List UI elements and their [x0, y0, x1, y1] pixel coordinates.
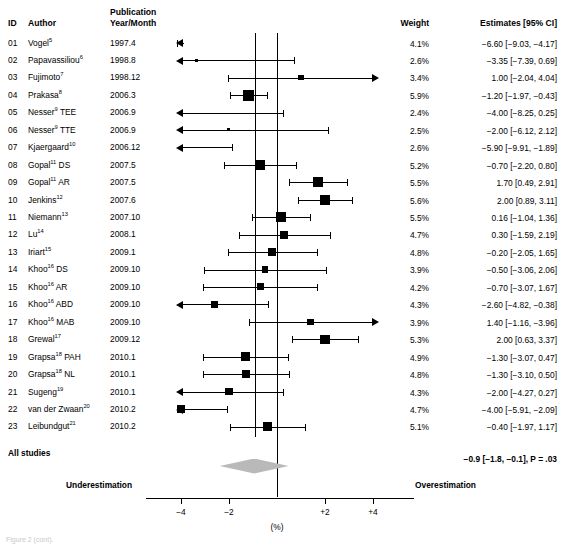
row-author: Nesser9 TEE [28, 108, 76, 116]
row-id: 14 [8, 265, 17, 273]
row-weight: 2.6% [383, 143, 429, 153]
effect-size-marker [177, 405, 185, 413]
author-reference-superscript: 11 [50, 159, 56, 165]
ci-left-arrow-icon [176, 144, 183, 152]
row-id: 02 [8, 56, 17, 64]
row-id: 06 [8, 126, 17, 134]
axis-tick [373, 499, 374, 504]
row-year: 2010.2 [110, 422, 136, 430]
figure-caption: Figure 2 (cont). [6, 536, 53, 543]
author-reference-superscript: 18 [55, 351, 61, 357]
row-weight: 4.1% [383, 39, 429, 49]
author-reference-superscript: 18 [55, 368, 61, 374]
row-estimate: −4.00 [−8.25, 0.25] [444, 108, 557, 118]
effect-size-marker [320, 335, 330, 345]
row-author: Grapsa18 NL [28, 370, 75, 378]
row-id: 08 [8, 161, 17, 169]
row-author: Khoo16 AR [28, 283, 67, 291]
effect-size-marker [313, 177, 323, 187]
row-author: Grapsa18 PAH [28, 353, 81, 361]
column-header-author: Author [28, 19, 56, 28]
ci-right-arrow-icon [372, 318, 379, 326]
row-estimate: 2.00 [0.89, 3.11] [444, 196, 557, 206]
confidence-interval-line [183, 43, 184, 44]
author-reference-superscript: 11 [50, 176, 56, 182]
effect-size-marker [227, 128, 230, 131]
effect-size-marker [298, 75, 303, 80]
row-year: 2008.1 [110, 230, 136, 238]
row-weight: 5.3% [383, 335, 429, 345]
ci-right-cap [317, 249, 318, 256]
row-author: Papavassiliou6 [28, 56, 83, 64]
ci-right-cap [268, 301, 269, 308]
row-author: Gopal11 DS [28, 161, 70, 169]
axis-tick-label: −2 [209, 507, 249, 517]
row-year: 2009.10 [110, 318, 140, 326]
row-estimate: −1.20 [−1.97, −0.43] [444, 91, 557, 101]
column-header-year-line1: Publication [110, 8, 156, 17]
row-year: 2006.12 [110, 143, 140, 151]
row-id: 04 [8, 91, 17, 99]
confidence-interval-line [183, 147, 232, 148]
row-author: van der Zwaan20 [28, 405, 90, 413]
pooled-reference-line [255, 33, 256, 437]
axis-tick-label: −4 [161, 507, 201, 517]
column-header-estimate: Estimates [95% CI] [444, 19, 557, 28]
row-author: Khoo16 DS [28, 265, 68, 273]
ci-right-cap [347, 179, 348, 186]
row-id: 21 [8, 388, 17, 396]
row-weight: 5.9% [383, 91, 429, 101]
row-weight: 5.6% [383, 196, 429, 206]
row-weight: 3.9% [383, 265, 429, 275]
row-estimate: −0.20 [−2.05, 1.65] [444, 248, 557, 258]
ci-right-cap [296, 162, 297, 169]
ci-right-arrow-icon [372, 74, 379, 82]
effect-size-marker [243, 90, 254, 101]
author-reference-superscript: 5 [49, 37, 52, 43]
column-header-year-line2: Year/Month [110, 19, 156, 28]
ci-left-cap [252, 214, 253, 221]
row-year: 2009.12 [110, 335, 140, 343]
ci-right-cap [310, 214, 311, 221]
row-author: Gopal11 AR [28, 178, 70, 186]
ci-right-cap [289, 371, 290, 378]
row-id: 23 [8, 422, 17, 430]
column-header-id: ID [8, 19, 17, 28]
ci-left-cap [249, 319, 250, 326]
ci-right-cap [177, 40, 178, 47]
summary-diamond [220, 459, 289, 474]
row-author: Niemann13 [28, 213, 68, 221]
row-author: Prakasa8 [28, 91, 62, 99]
row-weight: 2.6% [383, 56, 429, 66]
row-weight: 3.9% [383, 318, 429, 328]
effect-size-marker [257, 283, 264, 290]
row-estimate: −0.70 [−2.20, 0.80] [444, 161, 557, 171]
row-estimate: −2.60 [−4.82, −0.38] [444, 300, 557, 310]
axis-tick [325, 499, 326, 504]
author-reference-superscript: 16 [48, 281, 54, 287]
effect-size-marker [225, 388, 232, 395]
row-author: Iriart15 [28, 248, 51, 256]
author-reference-superscript: 12 [56, 194, 62, 200]
all-studies-label: All studies [8, 449, 50, 457]
column-header-weight: Weight [383, 19, 429, 28]
row-weight: 5.5% [383, 213, 429, 223]
row-author: Vogel5 [28, 39, 52, 47]
row-id: 05 [8, 108, 17, 116]
ci-left-cap [230, 92, 231, 99]
author-reference-superscript: 6 [80, 54, 83, 60]
ci-left-cap [203, 371, 204, 378]
effect-size-marker [242, 370, 250, 378]
confidence-interval-line [183, 409, 227, 410]
author-reference-superscript: 9 [55, 124, 58, 130]
ci-left-cap [239, 232, 240, 239]
row-year: 2006.3 [110, 91, 136, 99]
row-year: 2010.1 [110, 388, 136, 396]
row-estimate: −0.40 [−1.97, 1.17] [444, 422, 557, 432]
row-id: 17 [8, 318, 17, 326]
row-weight: 4.9% [383, 353, 429, 363]
row-author: Khoo16 MAB [28, 318, 74, 326]
effect-size-marker [195, 59, 198, 62]
row-estimate: 0.30 [−1.59, 2.19] [444, 230, 557, 240]
row-author: Sugeng19 [28, 388, 63, 396]
